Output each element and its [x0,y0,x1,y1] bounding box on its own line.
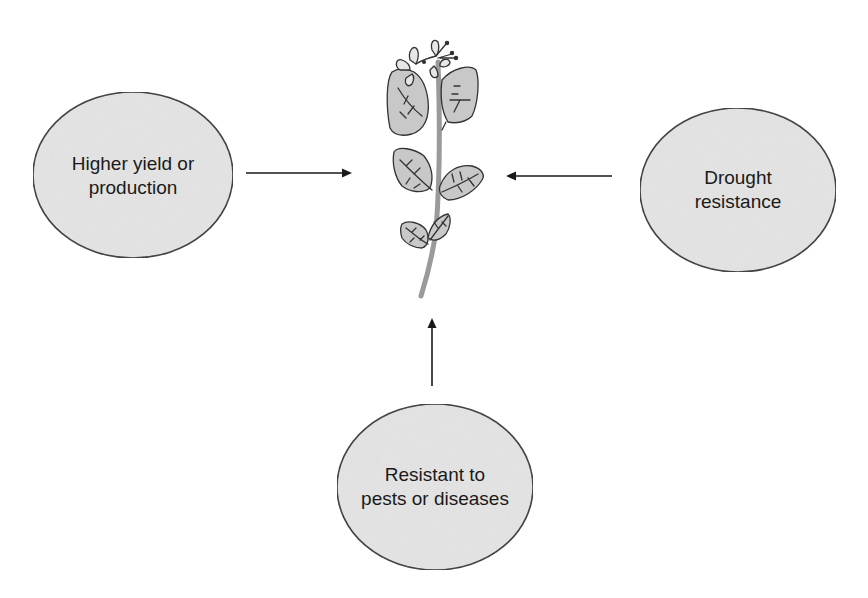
node-yield-line2: production [89,176,178,200]
node-yield-line1: Higher yield or [72,152,195,176]
node-drought-line1: Drought [704,166,772,190]
node-pests-label: Resistant to pests or diseases [337,404,533,570]
node-drought-label: Drought resistance [640,108,836,272]
node-pests-line1: Resistant to [385,463,485,487]
node-pests-line2: pests or diseases [361,487,509,511]
node-drought-line2: resistance [695,190,782,214]
diagram-canvas: Higher yield or production Drought resis… [0,0,868,598]
plant-icon [387,40,483,296]
node-yield-label: Higher yield or production [33,93,233,258]
